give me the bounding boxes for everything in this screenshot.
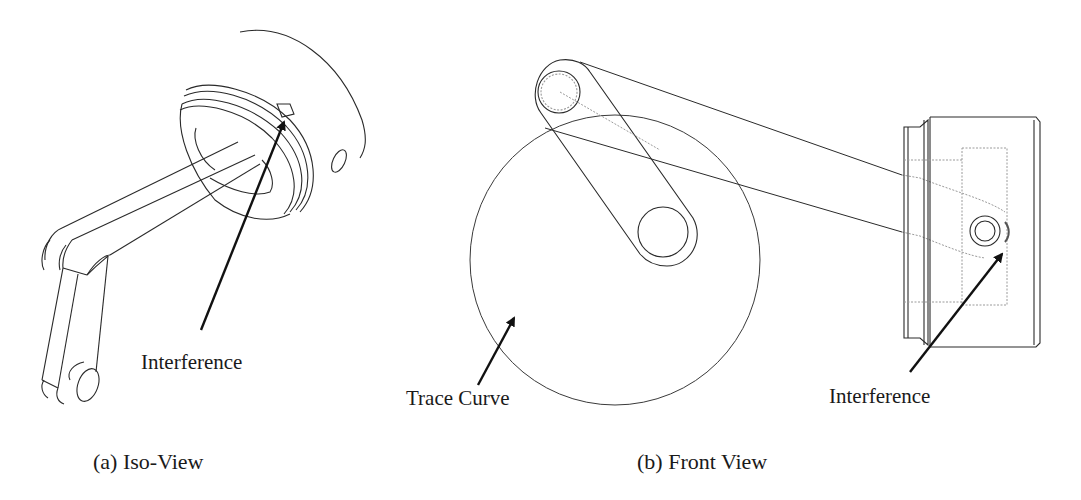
iso-interference-arrow xyxy=(201,122,284,330)
crank-slider-interference-figure: Interference Trace Curve Interference (a… xyxy=(0,0,1081,500)
iso-piston xyxy=(180,30,365,219)
trace-curve-arrow xyxy=(478,318,514,385)
front-interference-label: Interference xyxy=(829,386,930,407)
iso-interference-label: Interference xyxy=(141,352,242,373)
iso-view-drawing xyxy=(0,0,1081,500)
caption-front-view: (b) Front View xyxy=(637,451,767,473)
front-piston xyxy=(904,117,1040,347)
iso-crank-arm xyxy=(42,256,108,404)
trace-curve-circle xyxy=(470,115,760,405)
caption-iso-view: (a) Iso-View xyxy=(93,451,203,473)
front-crank-arm xyxy=(535,60,697,266)
trace-curve-label: Trace Curve xyxy=(406,388,510,409)
